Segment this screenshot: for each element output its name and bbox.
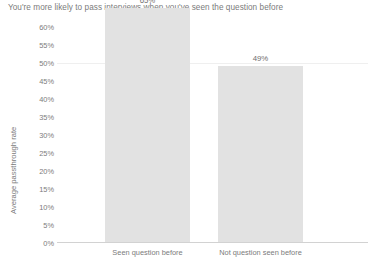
gridline-50 bbox=[57, 63, 368, 64]
bar bbox=[105, 8, 190, 242]
y-tick-label: 50% bbox=[39, 59, 54, 68]
bar bbox=[218, 66, 303, 242]
y-tick-label: 15% bbox=[39, 185, 54, 194]
y-tick-label: 0% bbox=[43, 239, 54, 248]
y-tick-label: 25% bbox=[39, 149, 54, 158]
y-axis-tick-labels: 0%5%10%15%20%25%30%35%40%45%50%55%60% bbox=[27, 27, 54, 243]
y-tick-label: 60% bbox=[39, 23, 54, 32]
y-tick-label: 20% bbox=[39, 167, 54, 176]
y-tick-label: 30% bbox=[39, 131, 54, 140]
x-category-label: Not question seen before bbox=[219, 248, 302, 257]
x-axis-line bbox=[57, 242, 368, 243]
bar-value-label: 65% bbox=[140, 0, 156, 5]
y-tick-label: 45% bbox=[39, 77, 54, 86]
x-category-label: Seen question before bbox=[112, 248, 182, 257]
bar-chart: You're more likely to pass interviews wh… bbox=[0, 0, 375, 270]
plot-area bbox=[57, 27, 368, 243]
y-tick-label: 55% bbox=[39, 41, 54, 50]
y-tick-label: 5% bbox=[43, 221, 54, 230]
y-tick-label: 10% bbox=[39, 203, 54, 212]
y-tick-label: 40% bbox=[39, 95, 54, 104]
y-tick-label: 35% bbox=[39, 113, 54, 122]
y-axis-title: Average passthrough rate bbox=[9, 200, 18, 214]
bar-value-label: 49% bbox=[253, 54, 269, 63]
